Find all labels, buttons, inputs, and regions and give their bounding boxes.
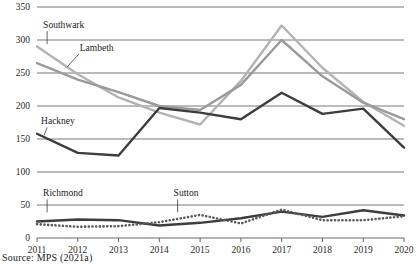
series-label-lambeth: Lambeth: [80, 43, 114, 53]
x-tick-label-2017: 2017: [272, 245, 291, 255]
series-lines: [37, 25, 404, 226]
leader-lambeth: [67, 54, 79, 67]
y-tick-150: 150: [16, 134, 31, 144]
series-line-richmond: [37, 210, 404, 225]
y-axis-tick-labels: 050100150200250300350: [16, 2, 31, 243]
x-axis: [37, 238, 404, 242]
series-label-hackney: Hackney: [41, 116, 75, 126]
x-tick-label-2016: 2016: [231, 245, 250, 255]
y-tick-300: 300: [16, 35, 31, 45]
x-tick-label-2018: 2018: [313, 245, 332, 255]
series-label-richmond: Richmond: [43, 188, 83, 198]
y-tick-100: 100: [16, 167, 31, 177]
y-tick-350: 350: [16, 2, 31, 12]
x-tick-label-2015: 2015: [191, 245, 210, 255]
y-tick-50: 50: [21, 200, 31, 210]
y-tick-0: 0: [25, 233, 30, 243]
line-chart: 050100150200250300350 201120122013201420…: [0, 0, 419, 265]
x-tick-label-2020: 2020: [395, 245, 414, 255]
chart-canvas: 050100150200250300350 201120122013201420…: [0, 0, 419, 265]
series-label-sutton: Sutton: [174, 188, 199, 198]
x-tick-label-2014: 2014: [150, 245, 169, 255]
x-tick-label-2013: 2013: [109, 245, 128, 255]
y-tick-200: 200: [16, 101, 31, 111]
y-tick-250: 250: [16, 68, 31, 78]
x-tick-label-2019: 2019: [354, 245, 373, 255]
leader-hackney: [44, 127, 47, 135]
series-label-southwark: Southwark: [43, 20, 84, 30]
source-note: Source: MPS (2021a): [2, 252, 92, 263]
gridlines: [37, 7, 404, 205]
